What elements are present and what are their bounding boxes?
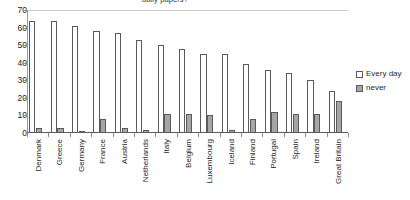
- bar-group: [51, 10, 72, 133]
- bar-never: [186, 114, 192, 133]
- bar-never: [229, 130, 235, 134]
- bar-group: [93, 10, 114, 133]
- legend-label-never: never: [366, 84, 386, 92]
- x-axis-label: Denmark: [35, 139, 43, 171]
- bar-every-day: [243, 64, 249, 133]
- bar-never: [314, 114, 320, 133]
- chart-title: daily papers?: [0, 0, 330, 4]
- x-axis-tick-mark: [113, 133, 114, 137]
- x-axis-tick-mark: [155, 133, 156, 137]
- x-axis-label: Iceland: [228, 139, 236, 165]
- bar-never: [164, 114, 170, 133]
- x-axis-label: Italy: [163, 139, 171, 154]
- bar-never: [57, 128, 63, 133]
- bar-never: [36, 128, 42, 133]
- bar-never: [100, 119, 106, 133]
- bar-every-day: [115, 33, 121, 133]
- legend-label-every-day: Every day: [366, 70, 402, 78]
- x-axis-tick-mark: [327, 133, 328, 137]
- bar-never: [250, 119, 256, 133]
- bar-never: [336, 101, 342, 133]
- bar-every-day: [329, 91, 335, 133]
- x-axis-label: Great Britain: [335, 139, 343, 184]
- x-axis-tick-mark: [262, 133, 263, 137]
- legend-item-every-day: Every day: [356, 68, 402, 80]
- bar-every-day: [265, 70, 271, 133]
- bar-group: [179, 10, 200, 133]
- bar-group: [72, 10, 93, 133]
- x-axis-label: Germany: [78, 139, 86, 172]
- x-axis-label: Ireland: [313, 139, 321, 163]
- bar-every-day: [200, 54, 206, 133]
- x-axis-label: Greece: [56, 139, 64, 165]
- legend-swatch-never: [356, 85, 363, 92]
- x-axis-label: Spain: [292, 139, 300, 159]
- bar-never: [293, 114, 299, 133]
- bar-group: [243, 10, 264, 133]
- bar-every-day: [72, 26, 78, 133]
- x-axis-tick-mark: [220, 133, 221, 137]
- bar-group: [29, 10, 50, 133]
- bar-never: [122, 128, 128, 133]
- bar-every-day: [179, 49, 185, 133]
- bar-every-day: [29, 21, 35, 133]
- x-axis-tick-mark: [177, 133, 178, 137]
- bar-never: [79, 131, 85, 133]
- bar-group: [286, 10, 307, 133]
- bar-never: [143, 130, 149, 134]
- x-axis-label: Portugal: [270, 139, 278, 169]
- x-axis-label: France: [99, 139, 107, 164]
- bar-group: [307, 10, 328, 133]
- x-axis-tick-mark: [70, 133, 71, 137]
- bar-group: [115, 10, 136, 133]
- bar-group: [222, 10, 243, 133]
- bar-every-day: [51, 21, 57, 133]
- x-axis-tick-mark: [198, 133, 199, 137]
- legend-swatch-every-day: [356, 71, 363, 78]
- bar-group: [329, 10, 350, 133]
- legend-item-never: never: [356, 82, 402, 94]
- bar-never: [207, 115, 213, 133]
- bar-group: [265, 10, 286, 133]
- bar-every-day: [158, 45, 164, 133]
- x-axis-label: Austria: [121, 139, 129, 164]
- x-axis-label: Netherlands: [142, 139, 150, 182]
- x-axis-tick-mark: [134, 133, 135, 137]
- bar-never: [271, 112, 277, 133]
- y-axis-tick-label: 0: [5, 129, 27, 138]
- bar-chart: daily papers? 010203040506070 DenmarkGre…: [0, 0, 410, 200]
- x-axis-label: Luxembourg: [206, 139, 214, 183]
- y-axis: 010203040506070: [0, 0, 27, 200]
- x-axis-tick-mark: [91, 133, 92, 137]
- x-axis-label: Belgium: [185, 139, 193, 168]
- bar-group: [200, 10, 221, 133]
- x-axis-tick-mark: [241, 133, 242, 137]
- bar-every-day: [136, 40, 142, 133]
- bar-every-day: [93, 31, 99, 133]
- x-axis-tick-mark: [27, 133, 28, 137]
- bar-group: [158, 10, 179, 133]
- bar-group: [136, 10, 157, 133]
- x-axis-tick-mark: [48, 133, 49, 137]
- x-axis-tick-mark: [305, 133, 306, 137]
- x-axis-tick-mark: [284, 133, 285, 137]
- x-axis-tick-mark: [348, 133, 349, 137]
- bar-every-day: [307, 80, 313, 133]
- bar-every-day: [222, 54, 228, 133]
- x-axis-label: Finland: [249, 139, 257, 165]
- bar-every-day: [286, 73, 292, 133]
- chart-legend: Every day never: [356, 68, 402, 96]
